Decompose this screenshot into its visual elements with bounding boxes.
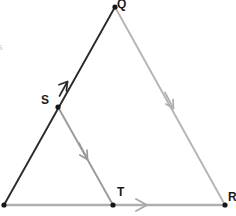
geometry-figure: Q S T R s [0,0,236,216]
vertex-dot-p [1,202,6,207]
vertex-label-t: T [117,186,124,198]
vertex-dot-t [110,202,115,207]
vertex-label-s: S [41,94,49,106]
vertex-label-q: Q [117,0,126,10]
arrow-st-icon [79,143,88,160]
vertex-label-r: R [228,191,236,203]
left-edge-mark: s [0,43,3,52]
vertex-dot-r [222,202,227,207]
vertex-dot-s [55,104,60,109]
geometry-canvas [0,0,236,216]
